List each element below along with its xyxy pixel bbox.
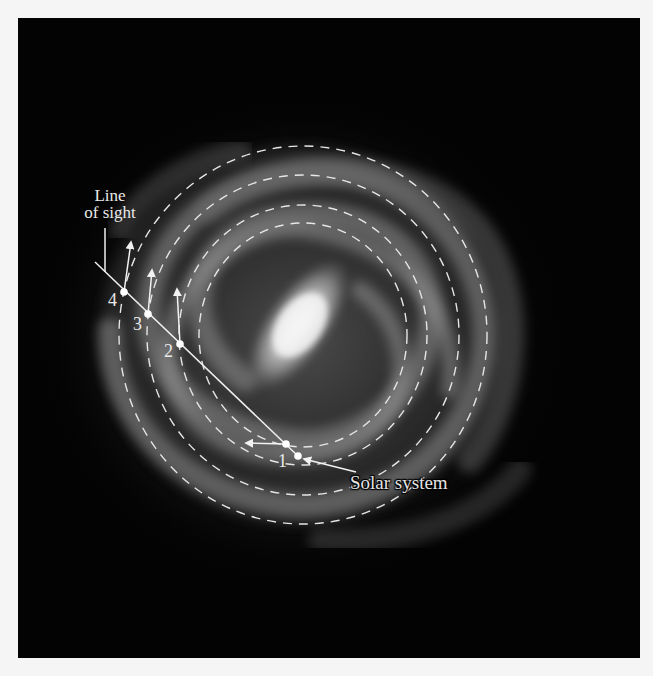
point-3-label: 3 <box>133 315 142 333</box>
point-3-marker <box>144 310 152 318</box>
line-of-sight-label: Line of sight <box>80 187 140 221</box>
galaxy-illustration <box>18 18 640 658</box>
point-1-marker <box>282 440 290 448</box>
velocity-arrow-1 <box>246 443 286 444</box>
solar-system-label: Solar system <box>350 473 448 492</box>
point-2-marker <box>176 340 184 348</box>
line-of-sight-label-line2: of sight <box>80 204 140 221</box>
line-of-sight-label-line1: Line <box>80 187 140 204</box>
point-4-label: 4 <box>108 291 117 309</box>
sun-marker <box>294 452 302 460</box>
point-2-label: 2 <box>164 342 173 360</box>
galaxy-diagram-panel: Line of sight 4 3 2 1 Solar system <box>18 18 640 658</box>
point-1-label: 1 <box>278 452 287 470</box>
point-4-marker <box>120 288 128 296</box>
